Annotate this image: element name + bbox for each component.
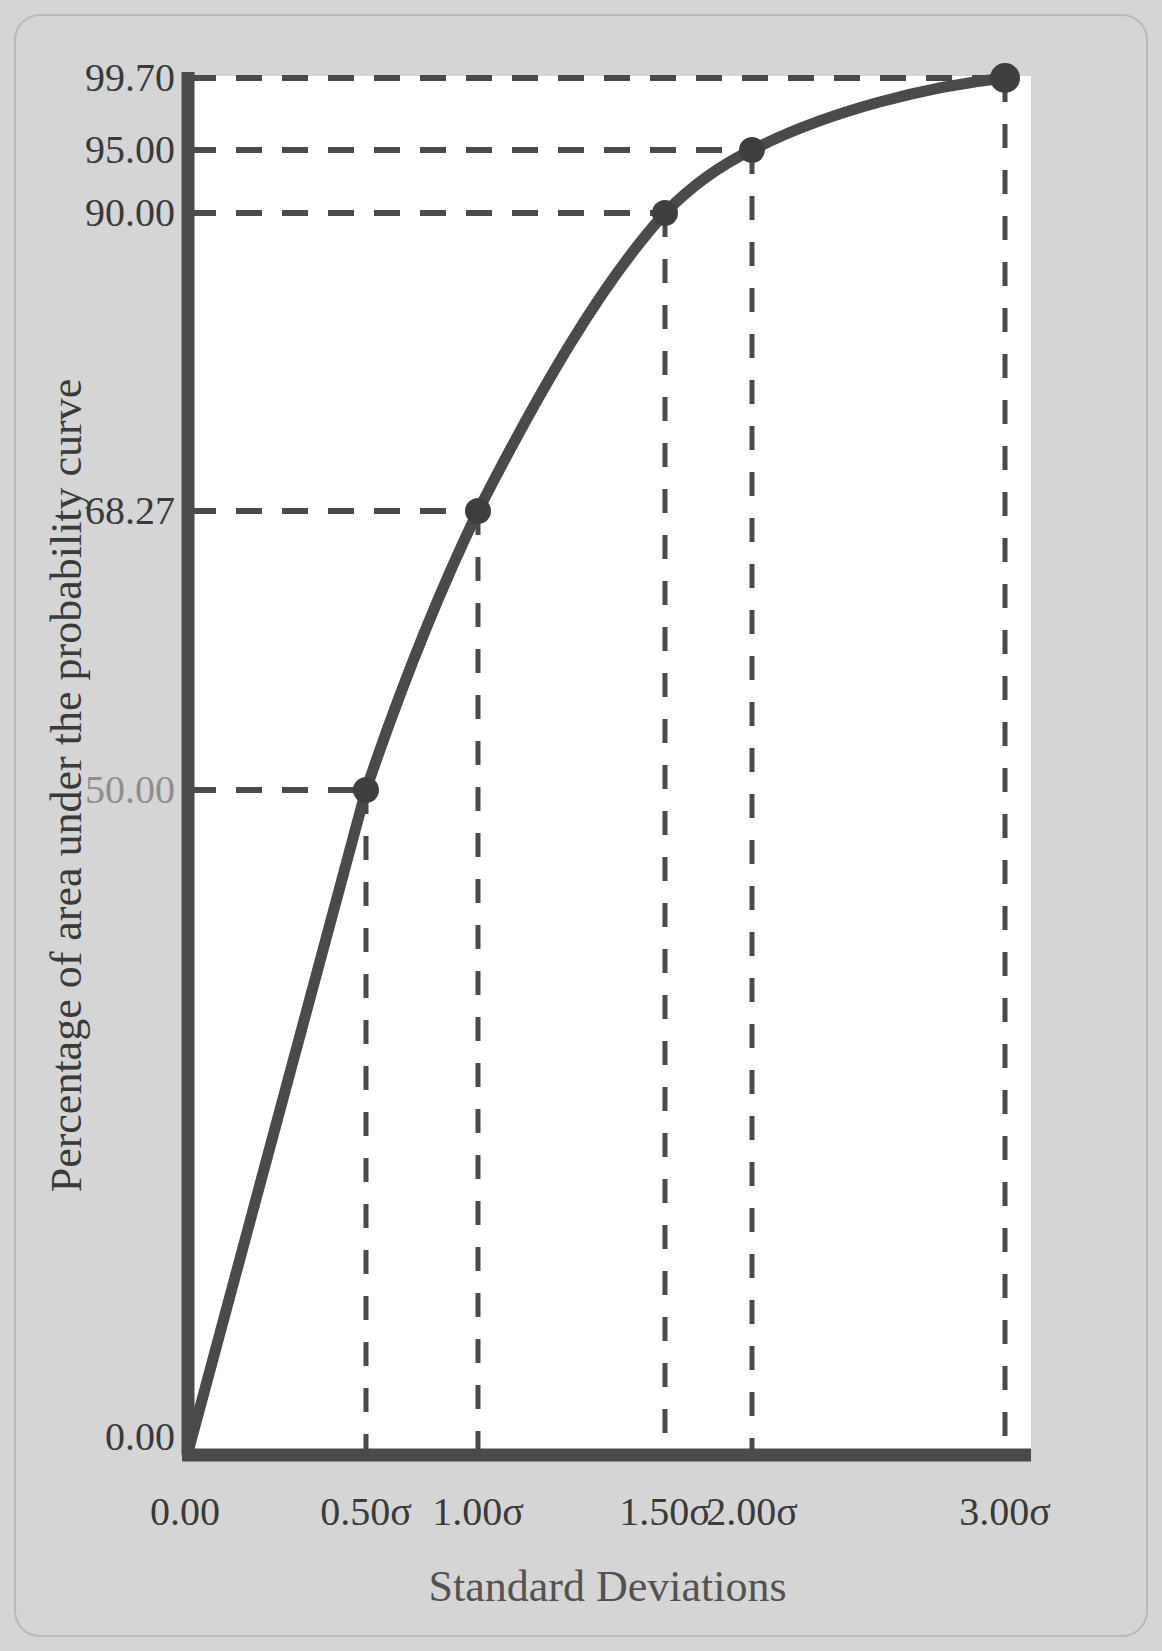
y-tick-label-50-00: 50.00 — [10, 770, 175, 810]
x-tick-label-3-00: 3.00σ — [925, 1492, 1085, 1532]
y-axis-title: Percentage of area under the probability… — [41, 376, 92, 1196]
x-axis-title: Standard Deviations — [185, 1561, 1030, 1612]
data-point-2-00 — [739, 137, 765, 163]
x-tick-label-1-00: 1.00σ — [398, 1492, 558, 1532]
x-tick-label-0-00: 0.00 — [105, 1492, 265, 1532]
y-tick-label-95-00: 95.00 — [10, 130, 175, 170]
y-tick-label-90-00: 90.00 — [10, 193, 175, 233]
data-point-1-00 — [465, 498, 491, 524]
y-tick-label-99-70: 99.70 — [10, 58, 175, 98]
y-tick-label-68-27: 68.27 — [10, 491, 175, 531]
data-point-0-50 — [353, 777, 379, 803]
y-tick-label-0-00: 0.00 — [10, 1417, 175, 1457]
x-tick-label-2-00: 2.00σ — [672, 1492, 832, 1532]
figure-canvas: 99.70 95.00 90.00 68.27 50.00 0.00 0.00 … — [0, 0, 1162, 1651]
data-point-1-50 — [652, 200, 678, 226]
data-point-3-00 — [990, 63, 1020, 93]
chart-plot-area — [0, 0, 1162, 1651]
